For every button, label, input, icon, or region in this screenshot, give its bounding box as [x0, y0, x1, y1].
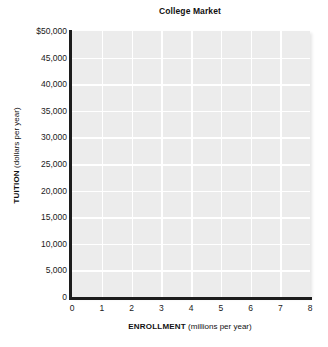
- y-axis-title-unit: [12, 168, 21, 170]
- x-axis-tick-label: 7: [268, 303, 292, 313]
- chart-title: College Market: [70, 6, 310, 16]
- gridline-vertical: [132, 31, 134, 297]
- x-axis-tick-label: 8: [298, 303, 322, 313]
- x-axis-tick-label: 2: [120, 303, 144, 313]
- gridline-vertical: [221, 31, 223, 297]
- gridline-vertical: [191, 31, 193, 297]
- y-axis-tick-label: $50,000: [1, 26, 67, 36]
- x-axis-tick-label: 0: [60, 303, 84, 313]
- y-axis-tick-label: 10,000: [1, 239, 67, 249]
- y-axis-tick-label: 0: [1, 292, 67, 302]
- x-axis-line: [69, 297, 312, 300]
- y-axis-line: [69, 30, 72, 300]
- x-axis-title-bold: ENROLLMENT: [128, 322, 186, 331]
- y-axis-title-unit-text: (dollars per year): [12, 107, 21, 167]
- y-axis-title-bold: TUITION: [12, 170, 21, 203]
- x-axis-tick-label: 3: [149, 303, 173, 313]
- y-axis-tick-label: 40,000: [1, 79, 67, 89]
- x-axis-title: ENROLLMENT (millions per year): [70, 322, 310, 331]
- plot-area: [72, 31, 310, 297]
- x-axis-tick-label: 5: [209, 303, 233, 313]
- x-axis-tick-label: 6: [239, 303, 263, 313]
- gridline-vertical: [102, 31, 104, 297]
- gridline-vertical: [161, 31, 163, 297]
- gridline-vertical: [280, 31, 282, 297]
- y-axis-tick-label: 5,000: [1, 265, 67, 275]
- x-axis-title-unit-text: (millions per year): [188, 322, 252, 331]
- chart-figure: College Market $50,00045,00040,00035,000…: [0, 0, 328, 347]
- x-axis-tick-label: 1: [90, 303, 114, 313]
- y-axis-title: TUITION (dollars per year): [12, 91, 21, 221]
- gridline-vertical: [251, 31, 253, 297]
- y-axis-tick-label: 45,000: [1, 53, 67, 63]
- x-axis-tick-label: 4: [179, 303, 203, 313]
- y-axis-tick-labels: $50,00045,00040,00035,00030,00025,00020,…: [0, 0, 67, 347]
